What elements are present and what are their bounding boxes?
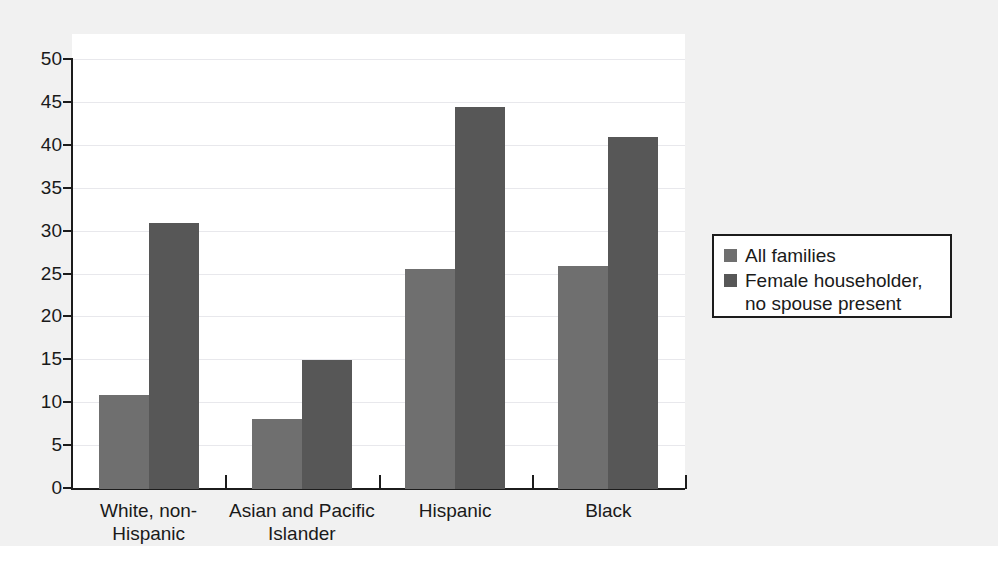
bar bbox=[149, 223, 199, 489]
chart-legend: All families Female householder, no spou… bbox=[712, 234, 952, 318]
bar bbox=[252, 419, 302, 489]
legend-entry-0: All families bbox=[724, 244, 836, 267]
chart-canvas-panel: 50454035302520151050 White, non- Hispani… bbox=[0, 0, 998, 546]
legend-swatch-female-householder bbox=[724, 274, 737, 287]
legend-label-female-householder: Female householder, no spouse present bbox=[745, 269, 922, 315]
y-axis-tick-label: 50 bbox=[41, 49, 62, 68]
x-axis-category-label: White, non- Hispanic bbox=[72, 499, 225, 545]
y-axis-tick-label: 35 bbox=[41, 178, 62, 197]
x-axis-category-label: Hispanic bbox=[379, 499, 532, 522]
y-axis-tick-label: 0 bbox=[51, 478, 62, 497]
x-axis-category-label: Black bbox=[532, 499, 685, 522]
y-axis-tick-mark bbox=[63, 401, 71, 403]
y-axis-tick-mark bbox=[63, 187, 71, 189]
legend-swatch-all-families bbox=[724, 249, 737, 262]
y-axis-tick-label: 5 bbox=[51, 435, 62, 454]
bar bbox=[608, 137, 658, 489]
y-axis-tick-mark bbox=[63, 358, 71, 360]
y-axis-tick-label: 40 bbox=[41, 135, 62, 154]
bar bbox=[99, 395, 149, 489]
bar bbox=[302, 360, 352, 489]
y-axis-tick-labels: 50454035302520151050 bbox=[0, 0, 62, 546]
x-axis-category-label: Asian and Pacific Islander bbox=[225, 499, 378, 545]
y-axis-tick-mark bbox=[63, 144, 71, 146]
y-axis-tick-mark bbox=[63, 315, 71, 317]
bar bbox=[405, 269, 455, 489]
y-axis-tick-label: 10 bbox=[41, 392, 62, 411]
y-axis-tick-mark bbox=[63, 230, 71, 232]
y-axis-tick-mark bbox=[63, 487, 71, 489]
chart-figure: 50454035302520151050 White, non- Hispani… bbox=[0, 0, 998, 573]
y-axis-tick-label: 30 bbox=[41, 221, 62, 240]
y-axis-tick-mark bbox=[63, 444, 71, 446]
legend-label-all-families: All families bbox=[745, 244, 836, 267]
bars-group bbox=[72, 34, 685, 489]
bar bbox=[455, 107, 505, 489]
y-axis-tick-label: 45 bbox=[41, 92, 62, 111]
y-axis-tick-label: 25 bbox=[41, 264, 62, 283]
legend-entry-1: Female householder, no spouse present bbox=[724, 269, 922, 315]
y-axis-tick-mark bbox=[63, 101, 71, 103]
x-axis-separator-tick bbox=[685, 475, 687, 489]
y-axis-tick-label: 20 bbox=[41, 306, 62, 325]
bar bbox=[558, 266, 608, 489]
y-axis-tick-label: 15 bbox=[41, 349, 62, 368]
y-axis-tick-mark bbox=[63, 273, 71, 275]
y-axis-tick-mark bbox=[63, 58, 71, 60]
